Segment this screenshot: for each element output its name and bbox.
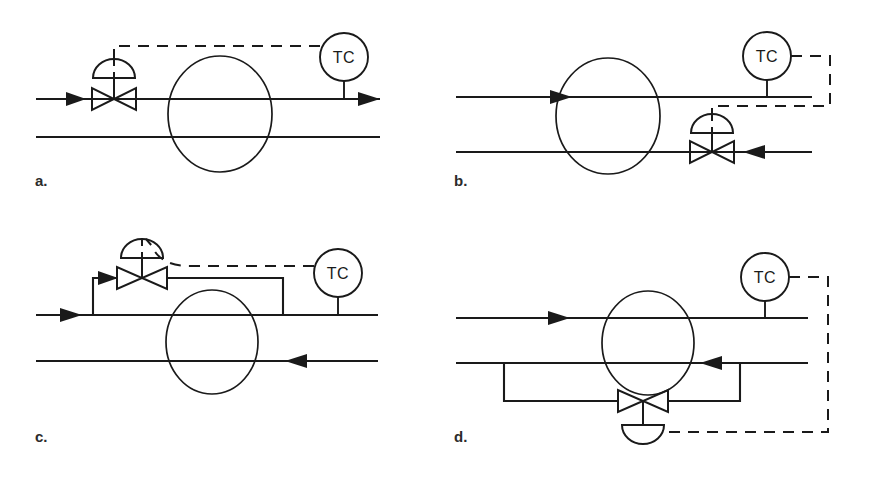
heat-exchanger-vessel-d xyxy=(602,291,694,395)
flow-arrow-inlet-a xyxy=(66,92,86,106)
valve-body-right-d xyxy=(643,390,668,412)
flow-arrow-inlet-c xyxy=(60,308,82,322)
panel-label-c: c. xyxy=(35,428,48,445)
figure-root: TC a. TC b. xyxy=(0,0,871,480)
signal-line-a xyxy=(114,46,320,59)
signal-line-c xyxy=(146,239,314,266)
flow-arrow-bottom-d xyxy=(700,356,722,370)
heat-exchanger-vessel-a xyxy=(168,56,272,172)
instrument-tag-tc-b: TC xyxy=(756,48,779,65)
bypass-riser-right-c xyxy=(167,278,283,315)
valve-actuator-dome-d xyxy=(622,425,664,444)
valve-body-left-c xyxy=(117,267,142,289)
instrument-tag-tc-c: TC xyxy=(327,265,350,282)
flow-arrow-bottom-b xyxy=(743,145,765,159)
flow-arrow-bypass-c xyxy=(98,271,118,285)
heat-exchanger-vessel-b xyxy=(556,58,660,174)
panel-label-b: b. xyxy=(454,172,467,189)
panel-label-a: a. xyxy=(35,172,48,189)
instrument-tag-tc-d: TC xyxy=(754,269,777,286)
panel-a-diagram: TC a. xyxy=(0,0,440,220)
signal-line-d xyxy=(664,277,828,432)
heat-exchanger-vessel-c xyxy=(166,290,258,394)
flow-arrow-outlet-a xyxy=(358,92,380,106)
panel-d-diagram: TC d. xyxy=(440,220,871,480)
panel-b-diagram: TC b. xyxy=(440,0,871,220)
instrument-tag-tc-a: TC xyxy=(333,49,356,66)
flow-arrow-bottom-c xyxy=(285,354,307,368)
flow-arrow-top-d xyxy=(548,311,570,325)
panel-label-d: d. xyxy=(454,428,467,445)
panel-c-diagram: TC c. xyxy=(0,220,440,480)
valve-body-right-c xyxy=(142,267,167,289)
bypass-riser-left-c xyxy=(93,278,117,315)
bypass-drop-left-d xyxy=(504,363,618,401)
